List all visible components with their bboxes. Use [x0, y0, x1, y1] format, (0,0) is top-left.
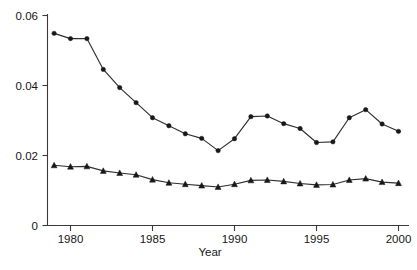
- series-line-upper-series: [54, 33, 398, 150]
- x-axis-labels: 1980 1985 1990 1995 2000: [58, 233, 412, 245]
- series-layer: [51, 31, 401, 189]
- y-axis-labels: 0 0.02 0.04 0.06: [16, 10, 39, 232]
- data-point-circle: [364, 107, 368, 111]
- data-point-circle: [396, 129, 400, 133]
- x-axis-title: Year: [198, 246, 221, 258]
- data-point-circle: [85, 36, 89, 40]
- data-point-circle: [331, 140, 335, 144]
- axis-group: [43, 14, 410, 231]
- chart-container: 0 0.02 0.04 0.06 1980 1985 1990 1995 200…: [0, 0, 417, 270]
- data-point-circle: [347, 116, 351, 120]
- line-chart: 0 0.02 0.04 0.06 1980 1985 1990 1995 200…: [0, 0, 417, 270]
- data-point-circle: [298, 126, 302, 130]
- y-tick-label-0: 0: [32, 220, 38, 232]
- data-point-circle: [150, 116, 154, 120]
- data-point-circle: [183, 132, 187, 136]
- x-tick-label-1980: 1980: [58, 233, 84, 245]
- data-point-circle: [101, 67, 105, 71]
- data-point-circle: [52, 31, 56, 35]
- data-point-circle: [68, 36, 72, 40]
- y-tick-label-2: 0.04: [16, 80, 39, 92]
- data-point-circle: [314, 140, 318, 144]
- x-tick-label-1995: 1995: [304, 233, 330, 245]
- series-upper-series: [52, 31, 401, 153]
- series-line-lower-series: [54, 165, 398, 187]
- series-lower-series: [51, 162, 401, 189]
- data-point-circle: [167, 124, 171, 128]
- axis-lines: [48, 14, 410, 226]
- data-point-circle: [216, 148, 220, 152]
- data-point-circle: [265, 114, 269, 118]
- data-point-circle: [380, 122, 384, 126]
- data-point-circle: [249, 114, 253, 118]
- data-point-circle: [232, 137, 236, 141]
- y-tick-label-1: 0.02: [16, 150, 38, 162]
- y-tick-label-3: 0.06: [16, 10, 38, 22]
- x-tick-label-2000: 2000: [386, 233, 412, 245]
- data-point-circle: [134, 100, 138, 104]
- x-tick-label-1990: 1990: [222, 233, 248, 245]
- x-tick-label-1985: 1985: [140, 233, 166, 245]
- data-point-circle: [200, 136, 204, 140]
- data-point-circle: [118, 85, 122, 89]
- data-point-circle: [282, 121, 286, 125]
